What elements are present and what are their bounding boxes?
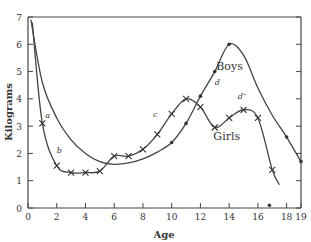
girls-curve — [32, 22, 279, 184]
series-boys — [31, 20, 303, 207]
x-marker — [97, 168, 103, 174]
x-marker — [154, 131, 160, 137]
y-tick-label: 0 — [16, 204, 22, 214]
dot-marker — [268, 203, 272, 207]
y-axis-label: Kilograms — [3, 83, 14, 141]
annotation-letter: a — [45, 111, 50, 120]
x-marker — [226, 115, 232, 121]
y-tick-label: 6 — [16, 40, 22, 50]
x-tick-label: 19 — [295, 212, 307, 222]
x-marker — [255, 115, 261, 121]
dot-marker — [199, 94, 203, 98]
x-axis-label: Age — [152, 229, 174, 240]
dot-marker — [299, 160, 303, 164]
annotation-girls: Girls — [213, 130, 240, 143]
x-tick-label: 6 — [111, 212, 117, 222]
annotation-letter: b — [57, 146, 62, 155]
annotation-boys: Boys — [216, 60, 243, 73]
x-tick-label: 0 — [25, 212, 31, 222]
chart: 0246810121416181901234567 abcdd″BoysGirl… — [0, 0, 311, 242]
y-tick-label: 1 — [16, 176, 22, 186]
y-tick-label: 5 — [16, 67, 22, 77]
x-tick-label: 18 — [281, 212, 293, 222]
x-tick-label: 8 — [140, 212, 146, 222]
dot-marker — [285, 135, 289, 139]
x-tick-label: 16 — [252, 212, 264, 222]
dot-marker — [184, 122, 188, 126]
y-tick-label: 2 — [16, 149, 22, 159]
x-marker — [54, 163, 60, 169]
x-tick-label: 10 — [166, 212, 178, 222]
y-tick-label: 7 — [16, 13, 22, 23]
series — [31, 20, 303, 207]
axes — [28, 17, 301, 208]
annotation-letter: d″ — [238, 92, 246, 101]
x-marker — [140, 146, 146, 152]
labels: abcdd″BoysGirls — [45, 60, 246, 155]
ticks: 0246810121416181901234567 — [16, 13, 307, 223]
series-girls — [32, 22, 279, 184]
y-tick-label: 4 — [16, 94, 22, 104]
x-tick-label: 2 — [54, 212, 60, 222]
annotation-letter: c — [153, 110, 158, 119]
x-tick-label: 4 — [83, 212, 89, 222]
x-tick-label: 14 — [223, 212, 235, 222]
dot-marker — [170, 141, 174, 145]
boys-curve — [31, 20, 301, 165]
x-marker — [111, 153, 117, 159]
x-marker — [197, 104, 203, 110]
x-tick-label: 12 — [195, 212, 206, 222]
dot-marker — [227, 42, 231, 46]
y-tick-label: 3 — [16, 122, 22, 132]
x-marker — [169, 111, 175, 117]
annotation-letter: d — [215, 78, 220, 87]
